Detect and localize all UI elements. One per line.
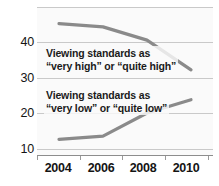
plot-inner: [37, 7, 213, 156]
annotation-low-line2: “very low” or “quite low”: [46, 102, 167, 115]
annotation-high-line2: “very high” or “quite high”: [46, 60, 176, 73]
x-tick-mark-end: [208, 156, 209, 160]
x-tick-label-2010: 2010: [168, 161, 204, 175]
line-chart: 40 30 20 10 2004 2006 2008 2010 Viewing …: [0, 0, 219, 186]
y-tick-label-30: 30: [6, 71, 34, 85]
annotation-high-series: Viewing standards as “very high” or “qui…: [44, 46, 178, 73]
y-tick-label-40: 40: [6, 35, 34, 49]
x-tick-mark-start: [37, 156, 38, 160]
x-tick-label-2004: 2004: [40, 161, 76, 175]
x-tick-label-2008: 2008: [125, 161, 161, 175]
y-tick-label-20: 20: [6, 106, 34, 120]
annotation-high-line1: Viewing standards as: [46, 47, 176, 60]
annotation-low-series: Viewing standards as “very low” or “quit…: [44, 88, 169, 115]
x-tick-mark-2009: [165, 156, 166, 160]
x-tick-label-2006: 2006: [83, 161, 119, 175]
plot-area: [37, 7, 213, 156]
series-lines: [37, 7, 213, 156]
x-tick-mark-2005: [80, 156, 81, 160]
x-tick-mark-2007: [122, 156, 123, 160]
y-tick-label-10: 10: [6, 142, 34, 156]
annotation-low-line1: Viewing standards as: [46, 89, 167, 102]
